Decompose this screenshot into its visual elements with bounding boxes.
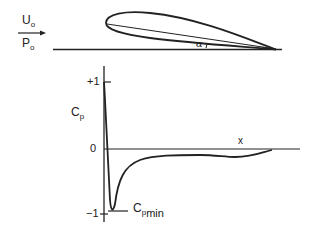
cp-curve — [104, 82, 272, 210]
tick-label-plus-one: +1 — [87, 76, 100, 87]
cp-axis-label: Cp — [71, 106, 84, 118]
x-axis-label: x — [238, 136, 243, 146]
tick-label-minus-one: −1 — [86, 208, 99, 219]
chord-line — [107, 24, 276, 49]
airfoil-pressure-diagram: Uo Po α +1 0 −1 Cp x Cpmin — [0, 0, 316, 242]
cp-min-label: Cpmin — [133, 202, 164, 214]
tick-label-zero: 0 — [90, 143, 96, 154]
freestream-arrow — [18, 31, 46, 36]
freestream-velocity-label: Uo — [22, 14, 35, 26]
airfoil-shape — [106, 12, 276, 49]
angle-of-attack-label: α — [196, 39, 203, 49]
freestream-pressure-label: Po — [22, 37, 34, 49]
